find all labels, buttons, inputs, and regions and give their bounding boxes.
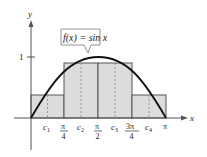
rectangle-1	[31, 95, 64, 118]
svg-text:c2: c2	[77, 122, 84, 133]
svg-text:π: π	[61, 122, 65, 131]
riemann-sum-diagram: f(x) = sin x y x 1 c1 c2 c3 c4 π4 π2 3π4…	[0, 0, 207, 157]
svg-text:π: π	[163, 122, 167, 131]
svg-text:c1: c1	[43, 122, 50, 133]
rectangle-4	[132, 95, 166, 118]
svg-text:c4: c4	[145, 122, 152, 133]
svg-text:4: 4	[62, 132, 66, 141]
svg-text:c3: c3	[111, 122, 118, 133]
svg-text:4: 4	[130, 132, 134, 141]
y-axis-label: y	[27, 9, 32, 19]
y-axis-arrow-icon	[29, 20, 34, 27]
midpoint-rectangles	[31, 63, 166, 118]
svg-text:π: π	[95, 122, 99, 131]
x-axis-arrow-icon	[181, 116, 188, 121]
function-label: f(x) = sin x	[63, 32, 108, 44]
y-tick-label: 1	[19, 52, 24, 62]
x-axis-label: x	[189, 113, 194, 123]
svg-text:3π: 3π	[126, 122, 134, 131]
svg-text:2: 2	[96, 132, 100, 141]
